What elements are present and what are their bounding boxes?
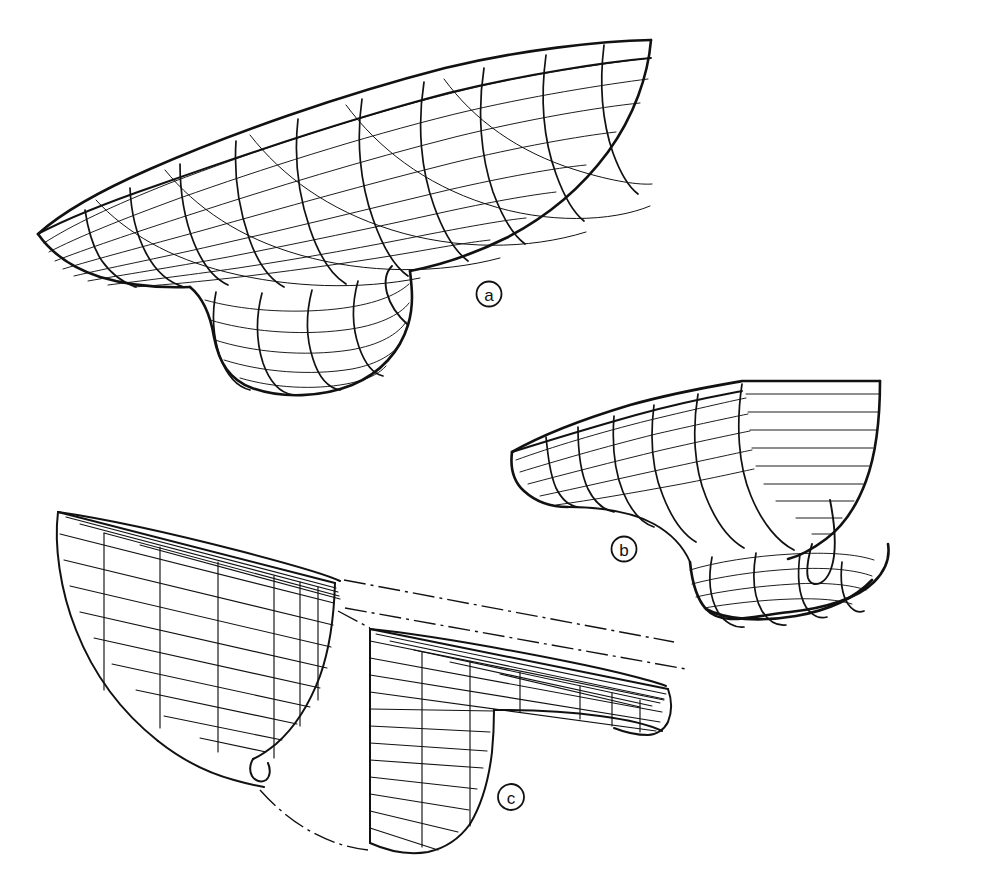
figure-root: a bbox=[0, 0, 996, 893]
panel-c-aft-bulb-stub bbox=[250, 759, 270, 781]
panel-b-station-5 bbox=[695, 394, 744, 548]
panel-b-station-6 bbox=[739, 384, 794, 550]
hull-lines-drawing: a bbox=[0, 0, 996, 893]
panel-a-station-8 bbox=[481, 68, 525, 244]
panel-c-aft-block bbox=[57, 512, 340, 787]
panel-c-aft-deck-outer bbox=[58, 512, 335, 583]
panel-b: b bbox=[512, 381, 889, 627]
panel-a-waterlines bbox=[44, 58, 650, 287]
panel-c-fwd-deck-outer bbox=[370, 629, 668, 689]
panel-b-waterlines bbox=[746, 394, 879, 534]
panel-b-bulb-profile bbox=[690, 544, 888, 619]
panel-b-label: b bbox=[612, 537, 637, 562]
panel-a-bulb-waterlines bbox=[205, 284, 409, 387]
panel-a-stations bbox=[85, 45, 638, 287]
panel-a-upper-profile bbox=[38, 58, 651, 234]
panel-a-station-9 bbox=[543, 55, 584, 221]
panel-a-station-5 bbox=[297, 119, 347, 284]
panel-b-label-text: b bbox=[619, 541, 628, 560]
panel-a-bulb-station-4 bbox=[354, 281, 383, 376]
panel-c-connector-bottom bbox=[260, 790, 368, 850]
panel-c-aft-forward-section bbox=[253, 583, 335, 759]
panel-a-bulb-station-2 bbox=[258, 293, 293, 395]
panel-a-station-6 bbox=[359, 99, 408, 276]
panel-b-station-4 bbox=[652, 405, 696, 542]
panel-c: c bbox=[57, 512, 686, 853]
panel-b-forward-waterlines bbox=[516, 398, 754, 505]
panel-a-buttocks bbox=[96, 79, 652, 286]
panel-c-aft-frames bbox=[104, 533, 318, 758]
panel-a: a bbox=[38, 40, 652, 395]
panel-a-station-10 bbox=[602, 45, 638, 194]
panel-a-bulb-nose bbox=[386, 266, 408, 325]
panel-c-forward-block bbox=[370, 629, 671, 853]
panel-a-bulb-station-3 bbox=[308, 290, 340, 390]
panel-c-label-text: c bbox=[507, 789, 516, 808]
panel-a-bulb-profile bbox=[190, 271, 412, 395]
panel-b-stations bbox=[546, 384, 794, 550]
panel-c-fwd-aft-face-bottom bbox=[370, 824, 470, 853]
panel-a-label: a bbox=[477, 282, 502, 307]
panel-c-aft-waterlines bbox=[60, 534, 334, 752]
panel-b-bulb-bottom bbox=[706, 580, 872, 619]
panel-a-buttock-2 bbox=[165, 170, 500, 270]
panel-b-station-3 bbox=[613, 416, 654, 527]
panel-a-station-3 bbox=[180, 164, 228, 285]
panel-c-aft-deck-strips bbox=[66, 517, 340, 599]
panel-c-label: c bbox=[498, 784, 524, 810]
panel-c-connector-top bbox=[344, 580, 674, 642]
panel-c-fwd-deck-strips bbox=[376, 634, 666, 707]
panel-c-connectors bbox=[260, 580, 686, 850]
panel-c-connector-middle bbox=[338, 611, 370, 628]
panel-a-label-text: a bbox=[484, 286, 494, 305]
panel-a-bulb-stations bbox=[214, 281, 383, 395]
